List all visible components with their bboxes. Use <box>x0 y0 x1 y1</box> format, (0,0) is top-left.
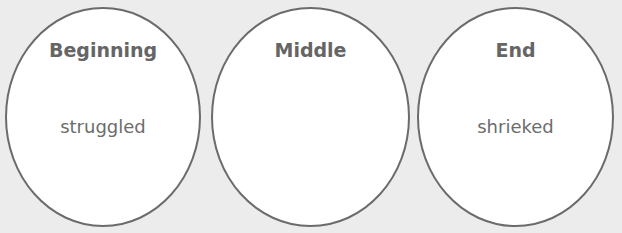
oval-beginning: Beginning struggled <box>5 7 201 227</box>
oval-title: Beginning <box>7 39 199 61</box>
story-sequence-diagram: Beginning struggled Middle End shrieked <box>0 0 622 233</box>
oval-word: struggled <box>7 116 199 137</box>
oval-title: End <box>419 39 612 61</box>
oval-middle: Middle <box>211 7 410 227</box>
oval-title: Middle <box>213 39 408 61</box>
oval-word: shrieked <box>419 116 612 137</box>
oval-end: End shrieked <box>417 7 614 227</box>
